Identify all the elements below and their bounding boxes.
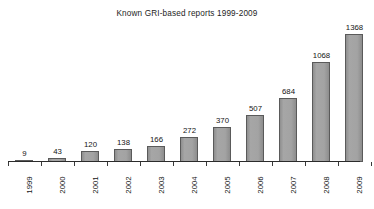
x-axis-tick-mark xyxy=(371,162,372,166)
x-axis-tick-label: 2006 xyxy=(239,168,272,206)
x-axis-tick-label-text: 2008 xyxy=(322,176,331,193)
bar xyxy=(180,137,198,162)
bar-group: 138 xyxy=(107,28,140,162)
x-axis-tick-mark xyxy=(8,162,9,166)
bar-chart-figure: Known GRI-based reports 1999-2009 943120… xyxy=(0,0,374,209)
bar xyxy=(312,62,330,162)
bar-value-label: 1368 xyxy=(338,23,371,32)
x-axis-line xyxy=(8,161,360,162)
x-axis-tick-label: 2004 xyxy=(173,168,206,206)
x-axis-tick-label-text: 2000 xyxy=(58,176,67,193)
bar-group: 166 xyxy=(140,28,173,162)
x-axis-tick-label-text: 2003 xyxy=(157,176,166,193)
bar-value-label: 166 xyxy=(140,135,173,144)
bar-group: 507 xyxy=(239,28,272,162)
x-axis-tick-label: 2009 xyxy=(338,168,371,206)
bar-group: 1368 xyxy=(338,28,371,162)
bar-value-label: 370 xyxy=(206,116,239,125)
bar-value-label: 684 xyxy=(272,87,305,96)
x-axis-tick-label: 2005 xyxy=(206,168,239,206)
bar xyxy=(345,34,363,162)
x-axis-tick-label-text: 2004 xyxy=(190,176,199,193)
x-axis-tick-label-text: 2002 xyxy=(124,176,133,193)
bar-group: 43 xyxy=(41,28,74,162)
x-axis-tick-label-text: 2007 xyxy=(289,176,298,193)
bar xyxy=(147,146,165,162)
x-axis-tick-mark xyxy=(272,162,273,166)
x-axis-tick-mark xyxy=(305,162,306,166)
bar-group: 120 xyxy=(74,28,107,162)
x-axis-tick-mark xyxy=(74,162,75,166)
x-axis-tick-label: 2002 xyxy=(107,168,140,206)
x-axis-tick-label-text: 2009 xyxy=(355,176,364,193)
bar-group: 1068 xyxy=(305,28,338,162)
bar-value-label: 43 xyxy=(41,147,74,156)
bar-group: 9 xyxy=(8,28,41,162)
x-axis-tick-mark xyxy=(338,162,339,166)
chart-title: Known GRI-based reports 1999-2009 xyxy=(0,9,374,18)
bar-group: 370 xyxy=(206,28,239,162)
bar-value-label: 9 xyxy=(8,149,41,158)
x-axis-tick-mark xyxy=(239,162,240,166)
x-axis-tick-mark xyxy=(173,162,174,166)
bar-group: 684 xyxy=(272,28,305,162)
x-axis-tick-label-text: 2001 xyxy=(91,176,100,193)
x-axis-tick-label: 2007 xyxy=(272,168,305,206)
x-axis-tick-mark xyxy=(206,162,207,166)
bar-value-label: 120 xyxy=(74,140,107,149)
x-axis-tick-label: 2008 xyxy=(305,168,338,206)
bar xyxy=(279,98,297,162)
x-axis-tick-label-text: 1999 xyxy=(25,176,34,193)
bar xyxy=(246,115,264,162)
x-axis-tick-label: 1999 xyxy=(8,168,41,206)
x-axis-tick-label: 2003 xyxy=(140,168,173,206)
x-axis-tick-label: 2000 xyxy=(41,168,74,206)
bar-value-label: 1068 xyxy=(305,51,338,60)
plot-area: 94312013816627237050768410681368 xyxy=(8,28,366,162)
bar-value-label: 272 xyxy=(173,126,206,135)
bar-value-label: 507 xyxy=(239,104,272,113)
x-axis-tick-label: 2001 xyxy=(74,168,107,206)
x-axis-tick-mark xyxy=(140,162,141,166)
x-axis-tick-label-text: 2006 xyxy=(256,176,265,193)
bar xyxy=(213,127,231,162)
x-axis-tick-mark xyxy=(107,162,108,166)
bar-value-label: 138 xyxy=(107,138,140,147)
bar-group: 272 xyxy=(173,28,206,162)
x-axis-tick-mark xyxy=(41,162,42,166)
x-axis-tick-label-text: 2005 xyxy=(223,176,232,193)
